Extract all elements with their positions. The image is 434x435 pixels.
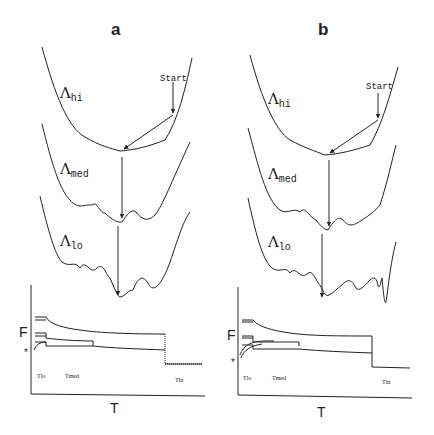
plot-b-top	[242, 320, 372, 336]
plot-a-upper	[35, 333, 93, 346]
tick-tlo-a: Tlo	[37, 373, 45, 379]
y-axis-label-a: F	[19, 324, 28, 340]
tick-tmed-a: Tmed	[65, 373, 79, 379]
plot-b-curve2	[241, 344, 262, 358]
lambda-hi-label-a: Λhi	[60, 84, 83, 104]
tick-tlo-b: Tlo	[243, 375, 251, 381]
lambda-hi-label-b: Λhi	[268, 90, 291, 110]
plot-a-drop	[165, 334, 202, 364]
x-axis-label-a: T	[110, 400, 119, 416]
tick-thi-b: Thi	[382, 379, 390, 385]
start-label-b: Start	[366, 82, 393, 92]
plot-b-curve1	[240, 341, 274, 355]
tick-tmed-b: Tmed	[272, 375, 286, 381]
star-marker-b: *	[231, 357, 235, 368]
panel-label-b: b	[318, 20, 328, 40]
plot-b-drop	[372, 336, 410, 368]
arrow-start-min-a	[124, 115, 173, 149]
lambda-med-label-b: Λmed	[268, 165, 297, 185]
figure-drawing	[0, 0, 434, 435]
plot-a-curve	[34, 342, 46, 350]
plot-a-lower	[35, 342, 165, 350]
lambda-med-label-a: Λmed	[60, 160, 89, 180]
plot-a-top	[35, 317, 165, 334]
lambda-lo-label-a: Λlo	[60, 232, 83, 252]
figure: a Λhi Λmed Λlo Start F * Tlo Tmed Thi T …	[0, 0, 434, 435]
lambda-lo-label-b: Λlo	[268, 233, 291, 253]
x-axis-label-b: T	[317, 404, 326, 420]
tick-thi-a: Thi	[175, 377, 183, 383]
star-marker-a: *	[24, 347, 28, 358]
y-axis-label-b: F	[227, 327, 236, 343]
panel-label-a: a	[111, 20, 120, 40]
start-label-a: Start	[160, 74, 187, 84]
arrow-start-min-b	[330, 120, 378, 153]
plot-b-lower	[242, 345, 372, 353]
